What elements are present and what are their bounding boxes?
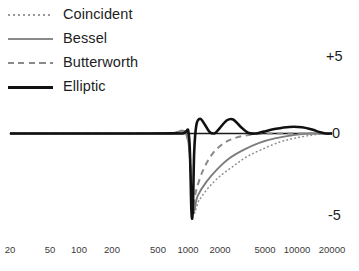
legend-item-elliptic: Elliptic <box>8 74 188 98</box>
x-axis-tick-1000: 1000 <box>177 244 198 255</box>
legend-swatch-coincident <box>8 7 53 21</box>
legend-label-elliptic: Elliptic <box>63 78 106 94</box>
legend-label-coincident: Coincident <box>63 6 133 22</box>
x-axis-tick-50: 50 <box>45 244 56 255</box>
chart-legend: Coincident Bessel Butterworth Elliptic <box>8 2 188 98</box>
y-axis-tick-plus5: +5 <box>326 48 343 64</box>
series-line-bessel <box>10 131 332 214</box>
legend-swatch-butterworth <box>8 55 53 69</box>
y-axis-tick-zero: 0 <box>332 125 340 141</box>
legend-swatch-bessel <box>8 31 53 45</box>
series-line-coincident <box>10 130 332 214</box>
x-axis-tick-10000: 10000 <box>284 244 310 255</box>
y-axis-tick-minus5: -5 <box>328 207 341 223</box>
x-axis-tick-500: 500 <box>150 244 166 255</box>
legend-label-butterworth: Butterworth <box>63 54 138 70</box>
x-axis-tick-2000: 2000 <box>209 244 230 255</box>
x-axis-tick-20000: 20000 <box>319 244 345 255</box>
legend-item-coincident: Coincident <box>8 2 188 26</box>
x-axis-tick-200: 200 <box>104 244 120 255</box>
legend-item-butterworth: Butterworth <box>8 50 188 74</box>
x-axis-tick-20: 20 <box>5 244 16 255</box>
legend-item-bessel: Bessel <box>8 26 188 50</box>
legend-label-bessel: Bessel <box>63 30 107 46</box>
legend-swatch-elliptic <box>8 79 53 93</box>
x-axis-tick-labels: 20501002005001000200050001000020000 <box>0 244 359 262</box>
x-axis-tick-100: 100 <box>71 244 87 255</box>
series-line-butterworth <box>10 131 332 212</box>
filter-response-chart: Coincident Bessel Butterworth Elliptic +… <box>0 0 359 271</box>
x-axis-tick-5000: 5000 <box>254 244 275 255</box>
